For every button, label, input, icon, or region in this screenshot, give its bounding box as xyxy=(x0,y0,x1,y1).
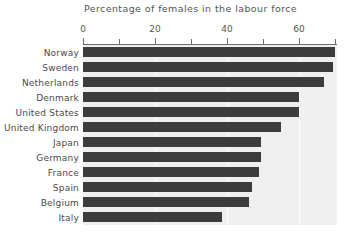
x-axis-tick-major xyxy=(155,38,156,45)
category-label-row: Sweden xyxy=(0,60,79,75)
bar xyxy=(83,152,261,162)
category-label: Belgium xyxy=(41,198,79,208)
category-label-row: Spain xyxy=(0,180,79,195)
category-label: Norway xyxy=(44,48,79,58)
x-axis-tick-label: 0 xyxy=(80,24,86,34)
bar-chart: Percentage of females in the labour forc… xyxy=(0,0,351,238)
x-axis-tick-label: 20 xyxy=(149,24,160,34)
category-label-row: Belgium xyxy=(0,195,79,210)
category-label: United States xyxy=(15,108,79,118)
category-label: France xyxy=(48,168,79,178)
bar xyxy=(83,122,281,132)
x-axis-tick-minor xyxy=(191,39,192,44)
bar-row xyxy=(83,135,337,150)
bar-row xyxy=(83,105,337,120)
bar-row xyxy=(83,210,337,225)
bar xyxy=(83,77,324,87)
category-label-row: Netherlands xyxy=(0,75,79,90)
bar-row xyxy=(83,150,337,165)
x-axis-tick-major xyxy=(83,38,84,45)
category-label-row: United Kingdom xyxy=(0,120,79,135)
category-label-row: Denmark xyxy=(0,90,79,105)
bar-row xyxy=(83,165,337,180)
x-axis-tick-major xyxy=(227,38,228,45)
bar-row xyxy=(83,90,337,105)
category-label-row: Japan xyxy=(0,135,79,150)
x-axis-tick-label: 40 xyxy=(221,24,232,34)
x-axis-tick-minor xyxy=(263,39,264,44)
x-axis-tick-label: 60 xyxy=(293,24,304,34)
plot-area xyxy=(83,45,337,225)
bar-row xyxy=(83,45,337,60)
category-label: Sweden xyxy=(42,63,79,73)
bar-group xyxy=(83,45,337,225)
bar-row xyxy=(83,120,337,135)
category-label: United Kingdom xyxy=(4,123,79,133)
category-label: Japan xyxy=(53,138,79,148)
bar xyxy=(83,107,299,117)
bar-row xyxy=(83,75,337,90)
bar xyxy=(83,92,299,102)
bar-row xyxy=(83,195,337,210)
category-label-row: Norway xyxy=(0,45,79,60)
category-label-row: Italy xyxy=(0,210,79,225)
category-label: Denmark xyxy=(36,93,79,103)
bar xyxy=(83,137,261,147)
category-label: Italy xyxy=(58,213,79,223)
bar xyxy=(83,182,252,192)
category-labels: NorwaySwedenNetherlandsDenmarkUnited Sta… xyxy=(0,45,79,225)
bar xyxy=(83,62,333,72)
x-axis-tick-minor xyxy=(119,39,120,44)
x-axis-tick-major xyxy=(299,38,300,45)
category-label: Germany xyxy=(36,153,79,163)
bar xyxy=(83,167,259,177)
category-label: Spain xyxy=(53,183,79,193)
category-label: Netherlands xyxy=(22,78,79,88)
category-label-row: United States xyxy=(0,105,79,120)
bar-row xyxy=(83,60,337,75)
bar xyxy=(83,212,222,222)
bar xyxy=(83,47,335,57)
chart-title: Percentage of females in the labour forc… xyxy=(0,3,351,14)
bar xyxy=(83,197,249,207)
bar-row xyxy=(83,180,337,195)
category-label-row: France xyxy=(0,165,79,180)
category-label-row: Germany xyxy=(0,150,79,165)
x-axis-tick-minor xyxy=(335,39,336,44)
